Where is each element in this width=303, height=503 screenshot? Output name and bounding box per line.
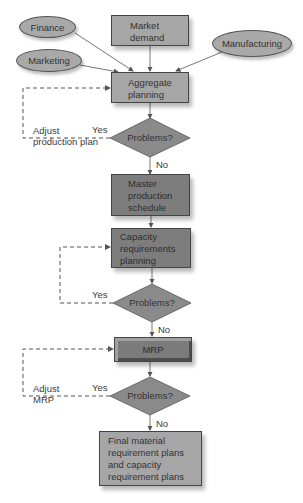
market-demand-line-2: demand: [130, 32, 188, 44]
decision-2-no: No: [158, 324, 170, 335]
decision-3-label: Problems?: [110, 390, 190, 401]
marketing-ellipse: Marketing: [16, 49, 82, 72]
finance-label: Finance: [31, 22, 65, 33]
decision-2-label: Problems?: [113, 297, 191, 308]
adjust-mrp-line-1: Adjust: [33, 383, 59, 394]
market-demand-box: Market demand: [111, 15, 189, 46]
crp-line-3: planning: [120, 255, 190, 267]
mps-line-2: production: [128, 190, 189, 202]
decision-3-yes: Yes: [92, 382, 108, 393]
mrp-label: MRP: [142, 344, 163, 355]
decision-1-yes: Yes: [92, 124, 108, 135]
decision-1-no: No: [156, 159, 168, 170]
decision-3-no: No: [156, 418, 168, 429]
mps-line-1: Master: [128, 178, 189, 190]
final-plans-box: Final material requirement plans and cap…: [99, 431, 202, 486]
adjust-mrp-line-2: MRP: [33, 394, 54, 405]
crp-line-1: Capacity: [120, 231, 190, 243]
aggregate-planning-box: Aggregate planning: [111, 72, 189, 103]
mrp-box: MRP: [114, 337, 192, 362]
market-demand-line-1: Market: [130, 20, 188, 32]
decision-1-label: Problems?: [110, 132, 190, 143]
final-line-4: requirement plans: [108, 471, 201, 483]
final-line-3: and capacity: [108, 459, 201, 471]
marketing-label: Marketing: [28, 55, 70, 66]
decision-2-yes: Yes: [92, 289, 108, 300]
master-production-schedule-box: Master production schedule: [111, 174, 190, 216]
adjust-production-plan-line-1: Adjust: [33, 125, 59, 136]
manufacturing-label: Manufacturing: [222, 38, 282, 49]
aggregate-planning-line-1: Aggregate: [128, 77, 188, 89]
final-line-2: requirement plans: [108, 447, 201, 459]
adjust-production-plan-line-2: production plan: [33, 136, 98, 147]
mps-line-3: schedule: [128, 202, 189, 214]
marketing-arrow: [80, 65, 118, 72]
manufacturing-ellipse: Manufacturing: [212, 30, 292, 57]
crp-line-2: requirements: [120, 243, 190, 255]
aggregate-planning-line-2: planning: [128, 89, 188, 101]
manufacturing-arrow: [176, 52, 222, 71]
capacity-requirements-planning-box: Capacity requirements planning: [111, 228, 191, 268]
finance-ellipse: Finance: [19, 16, 76, 38]
final-line-1: Final material: [108, 435, 201, 447]
